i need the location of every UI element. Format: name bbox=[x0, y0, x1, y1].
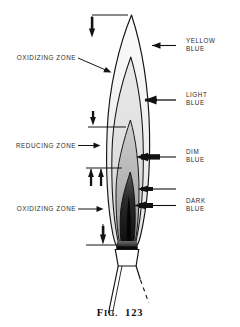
label-light-blue-line1: LIGHT bbox=[186, 91, 207, 98]
figure-caption: FIG. 123 bbox=[0, 307, 240, 318]
nozzle-dashed-guide bbox=[141, 280, 149, 303]
label-yellow-blue-line2: BLUE bbox=[186, 45, 205, 52]
callout-arrow-yellow-blue bbox=[152, 42, 176, 49]
label-oxidizing-zone-lower: OXIDIZING ZONE bbox=[0, 205, 76, 213]
leader-oxidizing-upper bbox=[78, 58, 112, 73]
label-reducing-zone: REDUCING ZONE bbox=[0, 142, 76, 150]
caption-prefix-rest: IG. bbox=[104, 309, 118, 318]
label-light-blue: LIGHTBLUE bbox=[186, 91, 207, 106]
label-dim-blue-line1: DIM bbox=[186, 148, 199, 155]
label-yellow-blue-line1: YELLOW bbox=[186, 37, 216, 44]
leader-reducing bbox=[78, 143, 101, 149]
caption-number: 123 bbox=[125, 307, 143, 318]
label-dim-blue-line2: BLUE bbox=[186, 156, 205, 163]
caption-prefix-cap: F bbox=[97, 307, 104, 318]
label-yellow-blue: YELLOWBLUE bbox=[186, 37, 216, 52]
figure-container: YELLOWBLUE LIGHTBLUE DIMBLUE DARKBLUE OX… bbox=[0, 0, 240, 327]
burner-nozzle bbox=[109, 250, 141, 314]
label-dim-blue: DIMBLUE bbox=[186, 148, 205, 163]
label-light-blue-line2: BLUE bbox=[186, 99, 205, 106]
label-oxidizing-zone-upper: OXIDIZING ZONE bbox=[0, 54, 76, 62]
callout-arrow-light-blue bbox=[145, 96, 177, 105]
flame-throat bbox=[116, 241, 137, 250]
label-dark-blue: DARKBLUE bbox=[186, 197, 206, 212]
leader-oxidizing-lower bbox=[78, 206, 104, 212]
label-dark-blue-line2: BLUE bbox=[186, 205, 205, 212]
label-dark-blue-line1: DARK bbox=[186, 197, 206, 204]
